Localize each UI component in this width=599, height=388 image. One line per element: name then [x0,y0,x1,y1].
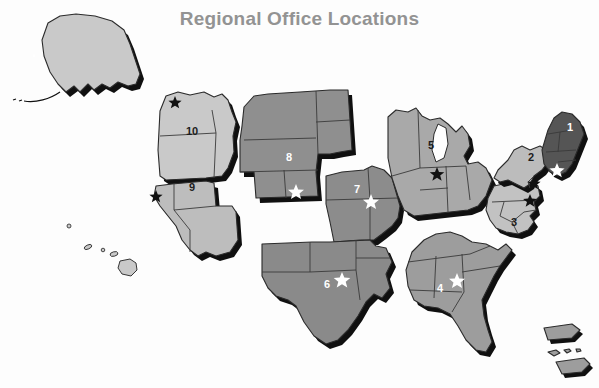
region-10-label: 10 [186,125,198,137]
region-7-label: 7 [354,183,360,195]
aleutian-chain [13,92,60,102]
regional-office-locations-map[interactable]: 10 9 8 7 [0,0,599,388]
region-9-group[interactable]: 9 [149,181,242,261]
region-1-shape[interactable] [542,112,584,176]
region-3-group[interactable]: 3 [486,180,544,239]
region-4-group[interactable]: 4 [406,232,516,357]
inset-alaska[interactable] [13,14,144,102]
region-2-label: 2 [528,151,534,163]
inset-puerto-rico[interactable] [544,324,593,378]
region-1-label: 1 [567,121,573,133]
region-6-label: 6 [324,278,330,290]
virgin-islands-shape[interactable] [548,349,581,356]
region-6-shape[interactable] [262,240,392,344]
hawaii-kauai[interactable] [67,224,71,228]
region-5-label: 5 [428,139,434,151]
alaska-shape[interactable] [42,14,140,92]
region-6-group[interactable]: 6 [262,240,396,349]
hawaii-maui[interactable] [110,251,119,257]
region-5-shape[interactable] [388,108,492,216]
region-2-shape[interactable] [494,146,550,188]
region-4-label: 4 [437,282,444,294]
map-page: Regional Office Locations 10 [0,0,599,388]
region-9-shape[interactable] [154,181,238,256]
region-8-label: 8 [286,151,292,163]
hawaii-big-island[interactable] [118,259,137,276]
region-5-group[interactable]: 5 [388,108,496,221]
region-3-label: 3 [511,216,517,228]
alaska-lake [33,55,36,58]
hawaii-molokai[interactable] [101,248,105,252]
region-10-group[interactable]: 10 [158,92,240,185]
region-9-label: 9 [189,181,195,193]
inset-hawaii[interactable] [67,224,137,276]
region-1-group[interactable]: 1 [542,112,588,181]
hawaii-oahu[interactable] [84,243,93,250]
